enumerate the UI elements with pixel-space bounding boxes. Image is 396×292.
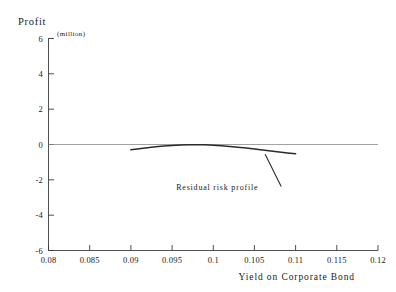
y-tick-label: 4 bbox=[39, 69, 44, 79]
x-tick-label: 0.09 bbox=[123, 255, 139, 265]
x-tick-label: 0.115 bbox=[327, 255, 347, 265]
chart-canvas: Profit (million) 6 4 2 0 -2 -4 -6 0.08 0… bbox=[0, 0, 396, 292]
x-tick-label: 0.12 bbox=[370, 255, 386, 265]
x-tick-label: 0.095 bbox=[162, 255, 182, 265]
x-tick-label: 0.08 bbox=[41, 255, 57, 265]
y-tick-label: -6 bbox=[36, 246, 43, 256]
x-axis-title: Yield on Corporate Bond bbox=[239, 272, 355, 282]
y-tick-label: 6 bbox=[39, 34, 43, 44]
x-tick-label: 0.11 bbox=[288, 255, 303, 265]
y-tick-label: 2 bbox=[39, 104, 43, 114]
annotation-label: Residual risk profile bbox=[176, 183, 258, 192]
y-tick-label: -2 bbox=[36, 175, 43, 185]
y-tick-label: 0 bbox=[39, 140, 43, 150]
x-tick-label: 0.1 bbox=[208, 255, 219, 265]
profit-chart-figure: Profit (million) 6 4 2 0 -2 -4 -6 0.08 0… bbox=[0, 0, 396, 292]
annotation-leader-line bbox=[265, 154, 281, 186]
y-tick-label: -4 bbox=[36, 210, 44, 220]
chart-title: Profit bbox=[18, 16, 46, 27]
x-tick-label: 0.105 bbox=[244, 255, 264, 265]
y-tick-labels: 6 4 2 0 -2 -4 -6 bbox=[36, 34, 44, 256]
x-axis-ticks bbox=[49, 245, 379, 251]
y-axis-unit-label: (million) bbox=[57, 30, 86, 38]
x-tick-label: 0.085 bbox=[80, 255, 100, 265]
residual-risk-profile-curve bbox=[131, 145, 296, 154]
x-tick-labels: 0.08 0.085 0.09 0.095 0.1 0.105 0.11 0.1… bbox=[41, 255, 386, 265]
